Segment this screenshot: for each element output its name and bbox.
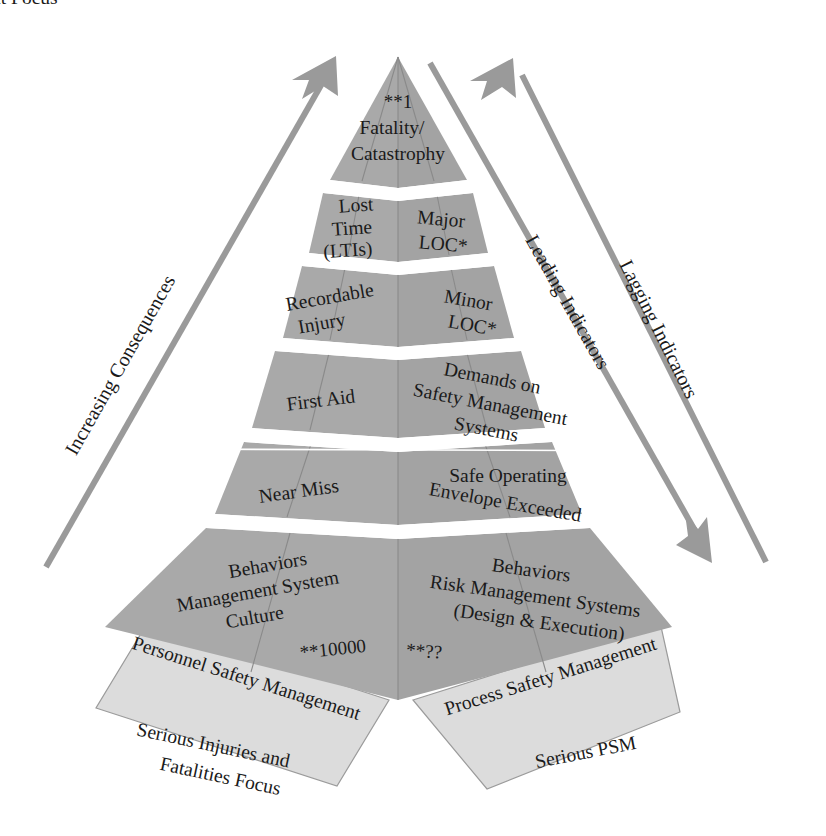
tier-1-count: **1 xyxy=(384,91,413,112)
tier-2-left-line-2: Time xyxy=(331,216,373,240)
tier-2-left-line-1: Lost xyxy=(338,193,375,216)
figure-canvas: Increasing Consequences Leading Indicato… xyxy=(0,0,826,836)
flange-right-focus-line-2: Incident Focus xyxy=(0,0,58,8)
tier-1-left-line-2: Catastrophy xyxy=(351,143,445,164)
lagging-indicators-arrowhead-icon xyxy=(470,58,516,100)
tier-2-right-line-2: LOC* xyxy=(418,231,468,256)
tier-2-right-line-1: Major xyxy=(417,206,467,231)
safety-pyramid-figure: Increasing Consequences Leading Indicato… xyxy=(0,0,826,836)
tier-1-left-line-1: Fatality/ xyxy=(360,117,426,138)
tier-5-right-line-1: Safe Operating xyxy=(449,465,567,486)
leading-indicators-arrowhead-icon xyxy=(676,513,712,563)
tier-6-right-count: **?? xyxy=(406,639,443,662)
axis-label-lagging-indicators: Lagging Indicators xyxy=(615,256,703,402)
axis-label-leading-indicators: Leading Indicators xyxy=(521,231,615,374)
